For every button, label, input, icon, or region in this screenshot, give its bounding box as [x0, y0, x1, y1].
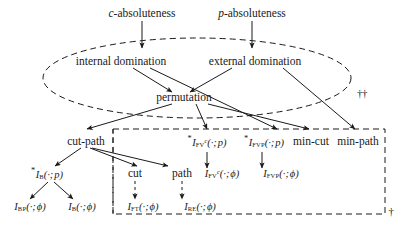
arrow-external-to-permutation	[190, 68, 232, 92]
node-i-bp-phi[interactable]: IBP(·; ϕ)	[14, 202, 45, 213]
node-p-absoluteness[interactable]: p-absoluteness	[218, 8, 286, 20]
arrow-permutation-to-min-cut	[208, 104, 309, 129]
node-i-fvp-phi[interactable]: IFVP(·; ϕ)	[263, 169, 298, 180]
node-i-b-p[interactable]: *IB(·; p)	[31, 167, 63, 181]
node-c-absoluteness[interactable]: c-absoluteness	[108, 8, 175, 20]
node-path[interactable]: path	[172, 168, 192, 180]
node-permutation[interactable]: permutation	[156, 92, 212, 104]
node-external-domination[interactable]: external domination	[209, 56, 301, 68]
arrow-cut-path-to-ib-p	[55, 148, 81, 166]
node-i-re-phi[interactable]: IRE(·; ϕ)	[184, 202, 216, 213]
arrow-external-to-min-path	[283, 68, 355, 129]
node-i-fvc-phi[interactable]: IFVc(·; ϕ)	[205, 169, 239, 180]
node-min-path[interactable]: min-path	[337, 136, 379, 148]
arrow-ib-p-to-ibp-phi	[30, 182, 48, 199]
arrow-cut-path-to-path	[92, 148, 168, 166]
domination-group-ellipse	[43, 38, 351, 118]
node-min-cut[interactable]: min-cut	[293, 136, 329, 148]
arrow-cut-path-to-cut	[90, 148, 137, 166]
figure-canvas: c-absoluteness p-absoluteness internal d…	[0, 0, 412, 236]
node-cut[interactable]: cut	[128, 168, 142, 180]
node-i-ft-phi[interactable]: IFT(·; ϕ)	[128, 202, 159, 213]
arrow-permutation-to-cut-path	[87, 104, 172, 129]
arrow-ib-p-to-ib-phi	[54, 182, 73, 199]
node-i-b-phi[interactable]: IB(·; ϕ)	[68, 202, 95, 213]
node-i-fvp-p[interactable]: *IFVP(·; p)	[244, 135, 284, 149]
node-internal-domination[interactable]: internal domination	[76, 56, 166, 68]
double-dagger-marker: ††	[357, 87, 367, 99]
arrow-permutation-to-ifvc-p	[196, 104, 207, 129]
arrow-internal-to-permutation	[133, 68, 172, 92]
node-cut-path[interactable]: cut-path	[67, 136, 105, 148]
node-i-fvc-p[interactable]: *IFVc(·; p)	[188, 135, 227, 149]
single-dagger-marker: †	[389, 205, 394, 217]
